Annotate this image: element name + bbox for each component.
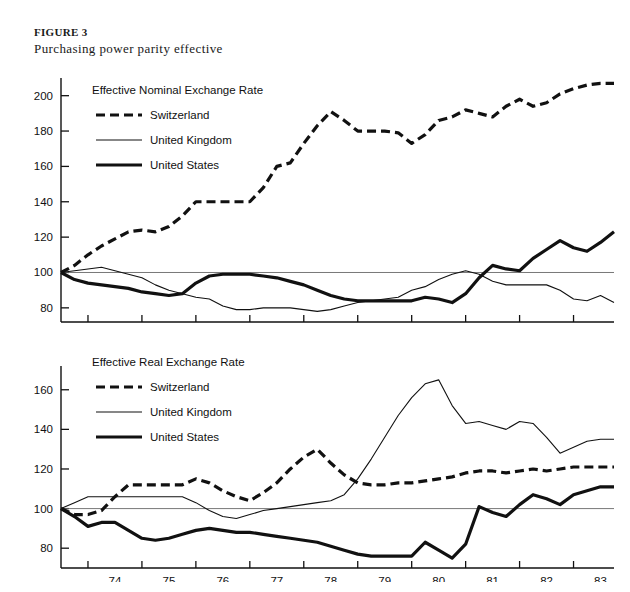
x-tick-label: 75 — [163, 575, 176, 582]
series-line-united-states — [61, 232, 614, 303]
real-exchange-rate-chart: 8010012014016074757677787980818283Effect… — [0, 352, 630, 582]
x-tick-label: 81 — [486, 575, 499, 582]
figure-label: FIGURE 3 — [34, 26, 87, 38]
legend-label-united-states: United States — [150, 431, 219, 443]
series-line-switzerland — [61, 449, 614, 514]
x-tick-label: 76 — [216, 575, 229, 582]
y-tick-label: 140 — [34, 423, 53, 435]
x-tick-label: 79 — [378, 575, 391, 582]
legend-label-switzerland: Switzerland — [150, 381, 209, 393]
x-tick-label: 74 — [109, 575, 122, 582]
y-tick-label: 200 — [34, 90, 53, 102]
chart-subtitle: Effective Nominal Exchange Rate — [92, 84, 263, 96]
legend-label-united-kingdom: United Kingdom — [150, 406, 232, 418]
chart-subtitle: Effective Real Exchange Rate — [92, 356, 245, 368]
x-tick-label: 80 — [432, 575, 445, 582]
nominal-exchange-rate-chart: 8010012014016018020074757677787980818283… — [0, 60, 630, 330]
legend-label-united-kingdom: United Kingdom — [150, 134, 232, 146]
x-tick-label: 74 — [109, 329, 122, 330]
x-tick-label: 80 — [432, 329, 445, 330]
series-line-switzerland — [61, 83, 614, 272]
y-tick-label: 180 — [34, 125, 53, 137]
y-tick-label: 120 — [34, 231, 53, 243]
x-tick-label: 77 — [270, 329, 283, 330]
chart-panel-real: 8010012014016074757677787980818283Effect… — [0, 352, 630, 582]
figure-title: Purchasing power parity effective — [34, 41, 223, 57]
y-tick-label: 100 — [34, 266, 53, 278]
x-tick-label: 76 — [216, 329, 229, 330]
chart-panel-nominal: 8010012014016018020074757677787980818283… — [0, 60, 630, 330]
x-tick-label: 77 — [270, 575, 283, 582]
x-tick-label: 75 — [163, 329, 176, 330]
y-tick-label: 160 — [34, 384, 53, 396]
x-tick-label: 82 — [540, 575, 553, 582]
y-tick-label: 100 — [34, 503, 53, 515]
x-tick-label: 83 — [594, 329, 607, 330]
x-tick-label: 83 — [594, 575, 607, 582]
y-tick-label: 120 — [34, 463, 53, 475]
series-line-united-kingdom — [61, 267, 614, 311]
y-tick-label: 80 — [40, 542, 53, 554]
y-tick-label: 80 — [40, 302, 53, 314]
legend-label-united-states: United States — [150, 159, 219, 171]
x-tick-label: 82 — [540, 329, 553, 330]
legend-label-switzerland: Switzerland — [150, 109, 209, 121]
x-tick-label: 81 — [486, 329, 499, 330]
y-tick-label: 160 — [34, 160, 53, 172]
x-tick-label: 78 — [324, 575, 337, 582]
x-tick-label: 79 — [378, 329, 391, 330]
x-tick-label: 78 — [324, 329, 337, 330]
y-tick-label: 140 — [34, 196, 53, 208]
